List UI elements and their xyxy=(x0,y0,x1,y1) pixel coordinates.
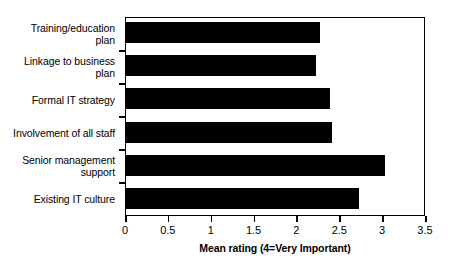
x-tick xyxy=(254,216,256,222)
x-tick-label: 2.5 xyxy=(332,223,347,237)
x-axis-title: Mean rating (4=Very Important) xyxy=(125,242,425,254)
x-tick xyxy=(125,216,127,222)
bar xyxy=(125,88,330,109)
x-tick xyxy=(425,216,427,222)
bar xyxy=(125,122,332,143)
x-tick xyxy=(168,216,170,222)
x-tick-label: 3 xyxy=(379,223,385,237)
category-axis-labels: Training/education plan Linkage to busin… xyxy=(0,17,120,216)
category-label: Senior management support xyxy=(0,150,120,183)
x-tick-label: 0 xyxy=(122,223,128,237)
bar-band xyxy=(125,50,425,83)
category-label: Existing IT culture xyxy=(0,183,120,216)
bars-layer xyxy=(125,17,425,216)
value-axis-ticks xyxy=(125,216,425,223)
bar xyxy=(125,188,359,209)
bar-band xyxy=(125,183,425,216)
bar xyxy=(125,155,385,176)
x-tick xyxy=(339,216,341,222)
x-tick-label: 3.5 xyxy=(417,223,432,237)
category-label: Formal IT strategy xyxy=(0,83,120,116)
bar-band xyxy=(125,17,425,50)
x-tick xyxy=(382,216,384,222)
x-tick xyxy=(296,216,298,222)
category-label: Linkage to business plan xyxy=(0,50,120,83)
value-axis-labels: 00.511.522.533.5 xyxy=(125,223,425,239)
category-label: Training/education plan xyxy=(0,17,120,50)
x-tick-label: 2 xyxy=(293,223,299,237)
x-tick-label: 1 xyxy=(208,223,214,237)
bar-chart: Training/education plan Linkage to busin… xyxy=(0,0,459,267)
bar xyxy=(125,22,320,43)
bar-band xyxy=(125,150,425,183)
bar-band xyxy=(125,117,425,150)
x-tick-label: 1.5 xyxy=(246,223,261,237)
x-tick-label: 0.5 xyxy=(160,223,175,237)
bar xyxy=(125,55,316,76)
category-label: Involvement of all staff xyxy=(0,117,120,150)
x-tick xyxy=(211,216,213,222)
bar-band xyxy=(125,83,425,116)
